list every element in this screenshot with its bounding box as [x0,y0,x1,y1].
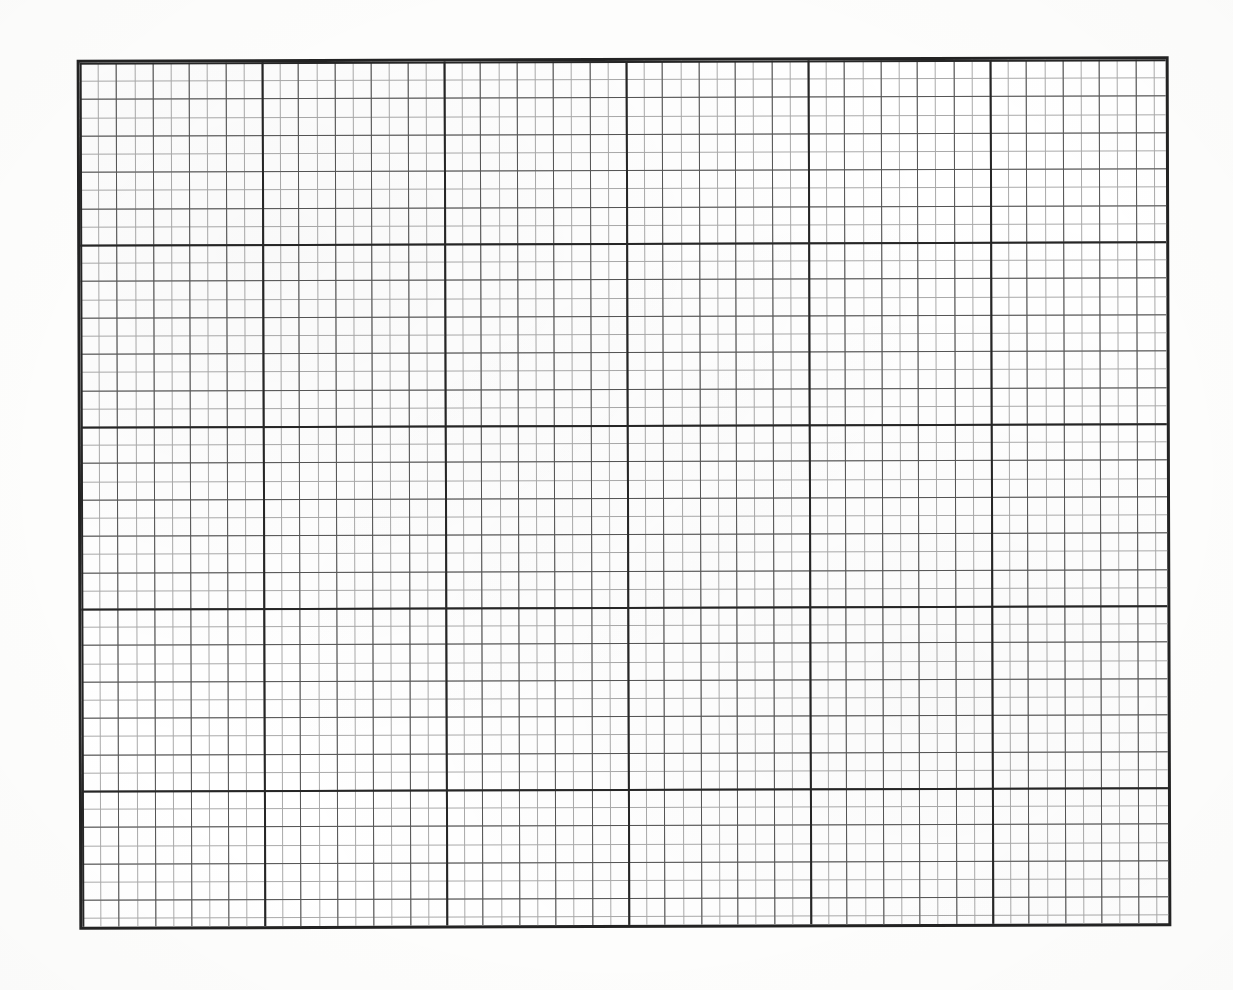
graph-paper-grid [77,56,1172,929]
grid-outer-border [77,56,1172,929]
page-root [0,0,1233,990]
